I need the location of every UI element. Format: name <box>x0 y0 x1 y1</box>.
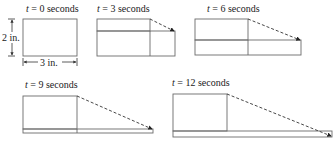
panel-t0: t = 0 seconds 2 in. 3 in. <box>2 3 79 68</box>
lower-stretched-block <box>23 129 153 133</box>
panel-t3: t = 3 seconds <box>97 3 175 56</box>
panel-t9: t = 9 seconds <box>23 79 153 133</box>
deformation-arrow <box>150 19 174 31</box>
upper-block <box>97 19 150 31</box>
deforming-rectangle-diagram: t = 0 seconds 2 in. 3 in. t = 3 seconds … <box>0 0 333 151</box>
height-label: 2 in. <box>2 32 20 43</box>
panel-t12-label: t = 12 seconds <box>172 77 230 88</box>
lower-stretched-block <box>97 31 175 56</box>
panel-t3-label: t = 3 seconds <box>97 3 150 14</box>
panel-t12: t = 12 seconds <box>172 77 332 137</box>
panel-t0-label: t = 0 seconds <box>26 3 79 14</box>
upper-block <box>195 19 248 40</box>
deformation-arrow <box>77 96 152 129</box>
upper-block <box>173 94 227 131</box>
panel-t9-label: t = 9 seconds <box>25 79 78 90</box>
original-rectangle <box>23 19 77 56</box>
panel-t6: t = 6 seconds <box>195 3 301 55</box>
panel-t6-label: t = 6 seconds <box>207 3 260 14</box>
upper-block <box>23 96 77 129</box>
deformation-arrow <box>248 19 300 40</box>
width-label: 3 in. <box>40 57 58 68</box>
lower-stretched-block <box>173 131 332 137</box>
deformation-arrow <box>227 94 331 136</box>
